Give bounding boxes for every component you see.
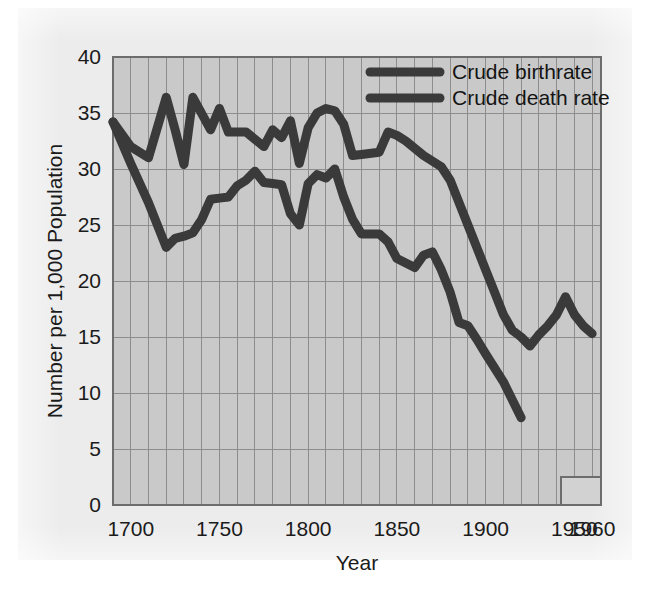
y-axis-tick-labels: 0510152025303540 — [78, 45, 101, 516]
x-axis-tick-labels: 1700175018001850190019501960 — [107, 517, 615, 540]
y-tick-label-35: 35 — [78, 101, 101, 124]
y-tick-label-40: 40 — [78, 45, 101, 68]
y-tick-label-25: 25 — [78, 213, 101, 236]
line-chart: 0510152025303540 17001750180018501900195… — [0, 0, 650, 606]
legend-label-crude-death-rate: Crude death rate — [452, 86, 610, 109]
x-tick-label-1750: 1750 — [196, 517, 243, 540]
x-tick-label-1800: 1800 — [285, 517, 332, 540]
y-tick-label-30: 30 — [78, 157, 101, 180]
legend-label-crude-birthrate: Crude birthrate — [452, 60, 592, 83]
y-tick-label-10: 10 — [78, 381, 101, 404]
y-axis-title: Number per 1,000 Population — [43, 144, 66, 418]
figure-root: 0510152025303540 17001750180018501900195… — [0, 0, 650, 606]
x-tick-label-1900: 1900 — [462, 517, 509, 540]
x-tick-label-1700: 1700 — [107, 517, 154, 540]
y-tick-label-0: 0 — [89, 493, 101, 516]
y-tick-label-20: 20 — [78, 269, 101, 292]
y-tick-label-5: 5 — [89, 437, 101, 460]
x-axis-title: Year — [336, 551, 378, 574]
x-tick-label-1850: 1850 — [374, 517, 421, 540]
y-tick-label-15: 15 — [78, 325, 101, 348]
x-tick-label-1960: 1960 — [569, 517, 616, 540]
corner-notch-rect — [561, 477, 601, 505]
